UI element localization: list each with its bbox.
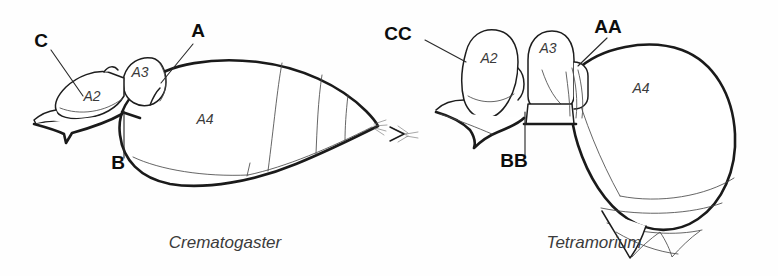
callout-label-a: A — [191, 20, 205, 41]
segment-label-a2-right: A2 — [479, 50, 497, 66]
genus-caption-crematogaster: Crematogaster — [169, 233, 283, 252]
tetramorium-hair-tuft-outline — [390, 127, 404, 141]
callout-label-aa: AA — [594, 16, 622, 37]
genus-caption-tetramorium: Tetramorium — [547, 233, 642, 252]
segment-label-a3: A3 — [130, 64, 148, 80]
tetramorium-petiole-a2 — [462, 30, 518, 118]
figure-canvas: A B C A2 A3 A4 Crematogaster — [0, 0, 778, 276]
crematogaster-drawing: A B C A2 A3 A4 Crematogaster — [34, 20, 387, 252]
callout-label-c: C — [34, 30, 48, 51]
segment-label-a4-right: A4 — [631, 80, 649, 96]
callout-label-b: B — [111, 152, 125, 173]
callout-label-cc: CC — [384, 23, 412, 44]
tetramorium-gaster-a4 — [571, 45, 735, 230]
segment-label-a2: A2 — [82, 88, 100, 104]
callout-label-bb: BB — [500, 150, 527, 171]
tetramorium-helcium-plate — [526, 104, 574, 124]
ant-morphology-figure: A B C A2 A3 A4 Crematogaster — [0, 0, 778, 276]
crematogaster-dorsal-bump — [104, 67, 118, 72]
a2-a3-connection — [518, 68, 524, 100]
segment-label-a4: A4 — [195, 111, 213, 127]
tetramorium-drawing: AA BB CC A2 A3 A4 Tetramorium — [384, 16, 735, 258]
segment-label-a3-right: A3 — [538, 40, 556, 56]
tetramorium-peduncle — [436, 100, 464, 110]
callout-leader-cc — [425, 40, 466, 62]
